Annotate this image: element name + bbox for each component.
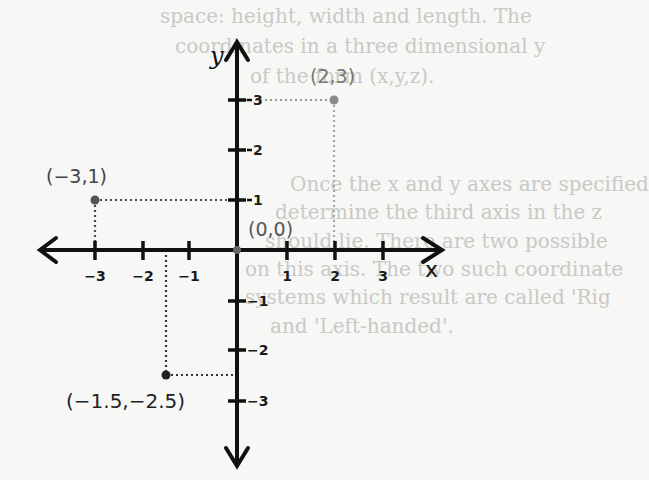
x-tick-label: −3	[84, 268, 105, 284]
x-tick-label: 1	[282, 268, 292, 284]
point-label-origin: (0,0)	[248, 218, 293, 240]
y-axis-label: y	[209, 42, 224, 70]
point-label-neg3-1: (−3,1)	[46, 165, 107, 187]
x-tick-label: −2	[132, 268, 153, 284]
y-tick-label: 1	[253, 192, 263, 208]
x-tick-label: 2	[330, 268, 340, 284]
points	[91, 96, 339, 380]
y-tick-label: −2	[247, 342, 268, 358]
y-tick-label: 2	[253, 142, 263, 158]
x-tick-label: 3	[378, 268, 388, 284]
x-tick-label: −1	[178, 268, 199, 284]
y-tick-label: 3	[253, 92, 263, 108]
point-origin	[233, 246, 241, 254]
y-tick-label: −3	[247, 393, 268, 409]
guide-lines	[95, 100, 334, 375]
y-tick-label: −1	[247, 293, 268, 309]
x-axis-label: x	[425, 257, 438, 282]
point-neg1.5-neg2.5	[162, 371, 171, 380]
point-neg3-1	[91, 196, 100, 205]
point-labels: (2,3) (−3,1) (0,0) (−1.5,−2.5)	[46, 65, 355, 413]
point-2-3	[330, 96, 339, 105]
point-label-neg1.5-neg2.5: (−1.5,−2.5)	[66, 389, 185, 413]
point-label-2-3: (2,3)	[310, 65, 355, 87]
